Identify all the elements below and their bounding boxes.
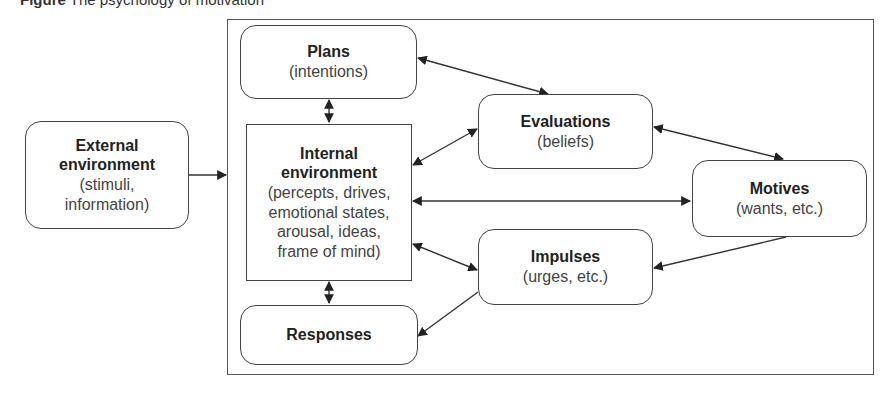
node-subtext: emotional states, <box>269 203 390 223</box>
edge-internal-impulses <box>413 244 477 270</box>
node-heading: environment <box>59 155 155 175</box>
node-subtext: information) <box>65 195 149 215</box>
edge-plans-evaluations <box>418 58 548 94</box>
node-subtext: (urges, etc.) <box>523 267 608 287</box>
node-motives: Motives (wants, etc.) <box>692 160 867 237</box>
node-external-environment: External environment (stimuli, informati… <box>25 121 189 229</box>
node-plans: Plans (intentions) <box>240 25 417 99</box>
node-subtext: (percepts, drives, <box>268 183 391 203</box>
node-subtext: frame of mind) <box>277 242 380 262</box>
node-subtext: (beliefs) <box>537 132 594 152</box>
node-heading: Internal <box>300 144 358 164</box>
node-heading: Impulses <box>531 247 600 267</box>
node-heading: environment <box>281 163 377 183</box>
node-subtext: (stimuli, <box>79 175 134 195</box>
node-subtext: arousal, ideas, <box>277 222 381 242</box>
edge-evaluations-motives <box>654 127 783 159</box>
node-heading: Evaluations <box>521 112 611 132</box>
node-heading: Motives <box>750 179 810 199</box>
node-internal-environment: Internal environment (percepts, drives, … <box>246 124 412 281</box>
node-impulses: Impulses (urges, etc.) <box>478 229 653 305</box>
node-heading: Responses <box>286 325 371 345</box>
node-subtext: (wants, etc.) <box>736 199 823 219</box>
edge-internal-evaluations <box>413 129 477 165</box>
edge-motives-impulses <box>654 237 786 268</box>
node-subtext: (intentions) <box>289 62 368 82</box>
node-heading: Plans <box>307 42 350 62</box>
edge-impulses-responses <box>418 292 478 336</box>
node-responses: Responses <box>240 305 418 365</box>
node-heading: External <box>75 136 138 156</box>
node-evaluations: Evaluations (beliefs) <box>478 94 653 169</box>
